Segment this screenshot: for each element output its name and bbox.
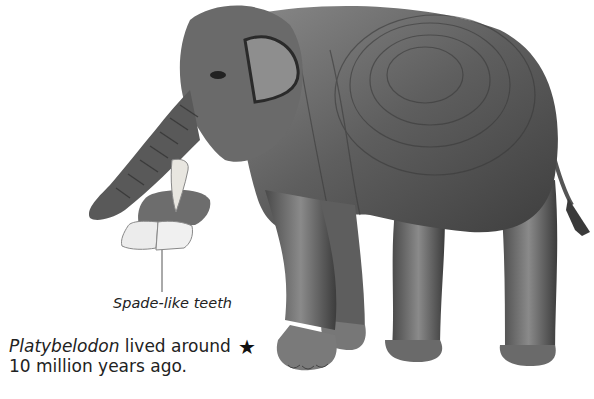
caption: Platybelodon lived around 10 million yea… bbox=[9, 336, 231, 376]
front-legs bbox=[265, 190, 366, 370]
caption-species-name: Platybelodon bbox=[9, 336, 119, 356]
tail bbox=[552, 150, 590, 236]
annotation-label-spade-teeth: Spade-like teeth bbox=[113, 295, 232, 311]
caption-line2: 10 million years ago. bbox=[9, 356, 187, 376]
spade-teeth bbox=[121, 221, 192, 250]
eye bbox=[210, 71, 226, 79]
star-icon: ★ bbox=[238, 337, 256, 357]
caption-line1-rest: lived around bbox=[119, 336, 230, 356]
